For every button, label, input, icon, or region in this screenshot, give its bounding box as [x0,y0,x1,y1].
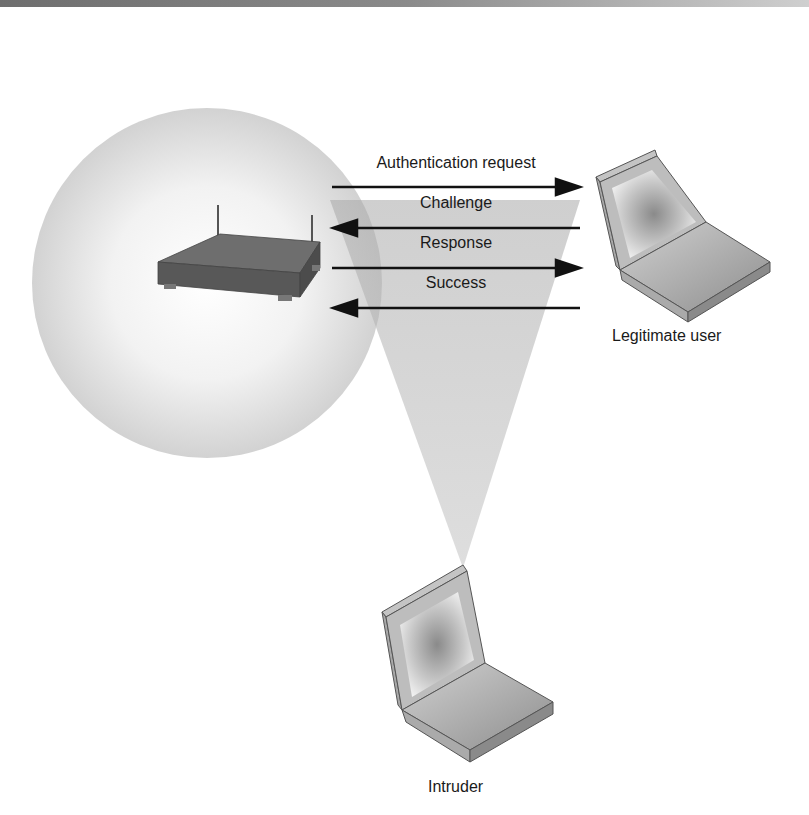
legitimate-user-laptop-icon [596,150,770,322]
eavesdrop-cone [330,200,580,568]
diagram-canvas [0,0,809,815]
message-success: Success [426,274,486,292]
message-response: Response [420,234,492,252]
legitimate-user-label: Legitimate user [612,327,721,345]
message-challenge: Challenge [420,194,492,212]
message-authentication-request: Authentication request [376,154,535,172]
intruder-laptop-icon [382,565,553,762]
intruder-label: Intruder [428,778,483,796]
